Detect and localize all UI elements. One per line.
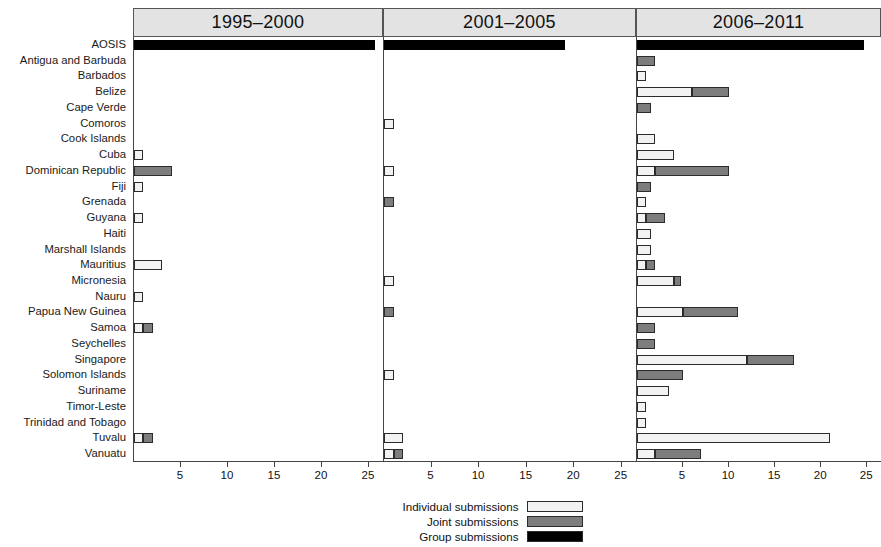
bar-segment-individual bbox=[637, 245, 651, 255]
bar-segment-individual bbox=[637, 134, 655, 144]
plot-area-2006-2011 bbox=[636, 37, 881, 462]
category-label: Singapore bbox=[74, 354, 126, 365]
bar-segment-joint bbox=[747, 355, 793, 365]
bar-segment-individual bbox=[637, 150, 674, 160]
bar-segment-joint bbox=[655, 449, 701, 459]
panel-title: 2001–2005 bbox=[463, 12, 556, 33]
bar-segment-individual bbox=[384, 166, 394, 176]
bar-segment-joint bbox=[637, 339, 655, 349]
category-label: Trinidad and Tobago bbox=[24, 417, 126, 428]
panel-header-1995-2000: 1995–2000 bbox=[133, 8, 383, 37]
x-tick-label: 15 bbox=[768, 469, 781, 481]
x-tick bbox=[274, 462, 275, 467]
panel-title: 2006–2011 bbox=[713, 12, 804, 33]
bar-segment-individual bbox=[637, 386, 669, 396]
x-tick bbox=[478, 462, 479, 467]
category-label: Vanuatu bbox=[85, 448, 126, 459]
legend-label: Group submissions bbox=[299, 530, 527, 543]
legend-label: Joint submissions bbox=[299, 515, 527, 528]
bar-segment-individual bbox=[637, 355, 747, 365]
x-tick bbox=[180, 462, 181, 467]
chart-legend: Individual submissionsJoint submissionsG… bbox=[0, 500, 881, 547]
bar-segment-group bbox=[384, 40, 565, 50]
bar-segment-individual bbox=[384, 370, 394, 380]
bar-segment-joint bbox=[637, 56, 655, 66]
category-label: Dominican Republic bbox=[26, 165, 126, 176]
x-tick bbox=[431, 462, 432, 467]
bar-segment-individual bbox=[637, 213, 646, 223]
category-label: Mauritius bbox=[80, 259, 126, 270]
category-label: Antigua and Barbuda bbox=[20, 55, 126, 66]
panel-header-2001-2005: 2001–2005 bbox=[383, 8, 636, 37]
x-tick-label: 15 bbox=[519, 469, 532, 481]
legend-swatch-joint bbox=[527, 516, 583, 527]
category-label: Papua New Guinea bbox=[28, 306, 126, 317]
legend-item-joint: Joint submissions bbox=[0, 515, 881, 528]
category-label: Marshall Islands bbox=[44, 244, 126, 255]
bar-segment-joint bbox=[637, 103, 651, 113]
bar-segment-individual bbox=[134, 260, 162, 270]
category-label: Timor-Leste bbox=[66, 401, 126, 412]
x-tick-label: 20 bbox=[315, 469, 328, 481]
x-tick-label: 5 bbox=[177, 469, 183, 481]
bar-segment-joint bbox=[655, 166, 729, 176]
category-label: Cape Verde bbox=[66, 102, 126, 113]
category-label: Micronesia bbox=[71, 275, 126, 286]
legend-swatch-group bbox=[527, 531, 583, 542]
bar-segment-individual bbox=[637, 260, 646, 270]
category-label: Grenada bbox=[82, 196, 126, 207]
category-label: Tuvalu bbox=[93, 432, 127, 443]
bar-segment-individual bbox=[637, 433, 830, 443]
plot-area-2001-2005 bbox=[383, 37, 636, 462]
x-tick-label: 5 bbox=[427, 469, 433, 481]
x-tick bbox=[682, 462, 683, 467]
category-label: Guyana bbox=[86, 212, 126, 223]
legend-item-group: Group submissions bbox=[0, 530, 881, 543]
panel-title: 1995–2000 bbox=[212, 12, 305, 33]
bar-segment-joint bbox=[384, 197, 394, 207]
x-axis-1: 510152025 bbox=[133, 462, 383, 488]
bar-segment-individual bbox=[384, 276, 394, 286]
panel-2001-2005: 2001–2005 bbox=[383, 8, 636, 462]
bar-segment-joint bbox=[692, 87, 729, 97]
bar-segment-individual bbox=[637, 197, 646, 207]
bar-segment-individual bbox=[134, 323, 143, 333]
x-tick-label: 10 bbox=[472, 469, 485, 481]
bar-segment-joint bbox=[143, 433, 152, 443]
chart-root: AOSISAntigua and BarbudaBarbadosBelizeCa… bbox=[0, 0, 881, 547]
bar-segment-individual bbox=[637, 87, 692, 97]
x-tick-label: 25 bbox=[361, 469, 374, 481]
x-tick-label: 20 bbox=[567, 469, 580, 481]
category-label: Seychelles bbox=[71, 338, 126, 349]
bar-segment-individual bbox=[637, 449, 655, 459]
category-label: Fiji bbox=[112, 181, 126, 192]
category-label: Solomon Islands bbox=[42, 369, 126, 380]
bar-segment-individual bbox=[384, 433, 403, 443]
bar-segment-joint bbox=[384, 307, 394, 317]
bar-segment-joint bbox=[394, 449, 404, 459]
bar-segment-group bbox=[637, 40, 864, 50]
category-label: Belize bbox=[95, 86, 126, 97]
category-label: AOSIS bbox=[91, 39, 126, 50]
bar-segment-individual bbox=[134, 182, 143, 192]
panel-1995-2000: 1995–2000 bbox=[133, 8, 383, 462]
bar-segment-individual bbox=[134, 213, 143, 223]
category-label: Cuba bbox=[99, 149, 126, 160]
x-axis-3: 510152025 bbox=[636, 462, 881, 488]
x-tick-label: 25 bbox=[614, 469, 627, 481]
x-tick-label: 25 bbox=[860, 469, 873, 481]
bar-segment-individual bbox=[637, 307, 683, 317]
x-tick bbox=[621, 462, 622, 467]
bar-segment-joint bbox=[674, 276, 681, 286]
x-tick-label: 10 bbox=[221, 469, 234, 481]
bar-segment-individual bbox=[384, 119, 394, 129]
bar-segment-individual bbox=[637, 229, 651, 239]
x-tick bbox=[526, 462, 527, 467]
x-tick bbox=[728, 462, 729, 467]
bar-segment-joint bbox=[134, 166, 172, 176]
bar-segment-individual bbox=[637, 166, 655, 176]
legend-item-individual: Individual submissions bbox=[0, 500, 881, 513]
x-tick-label: 20 bbox=[814, 469, 827, 481]
bar-segment-joint bbox=[637, 323, 655, 333]
x-tick bbox=[820, 462, 821, 467]
